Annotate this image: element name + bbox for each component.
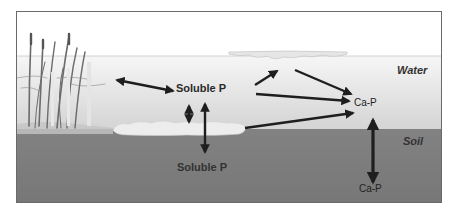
diagram-scene — [17, 12, 441, 202]
label-soluble-p-water: Soluble P — [176, 83, 226, 94]
label-soluble-p-soil: Soluble P — [177, 162, 227, 173]
diagram-frame: Soluble P Soluble P Ca-P Ca-P Water Soil — [16, 11, 442, 203]
label-ca-p-soil: Ca-P — [359, 184, 382, 194]
label-ca-p-water: Ca-P — [354, 98, 377, 108]
zone-label-water: Water — [397, 65, 427, 76]
zone-label-soil: Soil — [403, 136, 423, 147]
water-zone — [17, 56, 441, 129]
air-zone — [17, 12, 441, 56]
